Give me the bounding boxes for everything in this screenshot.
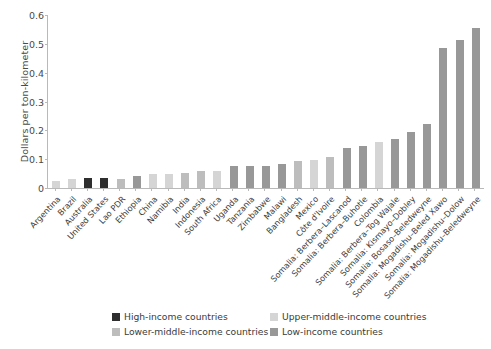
x-axis-tickmark bbox=[232, 188, 233, 191]
legend-item-lower-middle[interactable]: Lower-middle-income countries bbox=[112, 326, 270, 337]
x-axis-tickmark bbox=[216, 188, 217, 191]
bar-slot bbox=[274, 15, 290, 188]
bar bbox=[472, 28, 480, 188]
bar bbox=[100, 178, 108, 188]
x-axis-labels: ArgentinaBrazilAustraliaUnited StatesLao… bbox=[47, 192, 483, 302]
x-axis-tickmark bbox=[103, 188, 104, 191]
legend-item-high[interactable]: High-income countries bbox=[112, 311, 270, 322]
bar bbox=[230, 166, 238, 188]
bar-slot bbox=[226, 15, 242, 188]
bar-chart: Dollars per ton-kilometer 0.60.50.40.30.… bbox=[0, 0, 491, 349]
bar-slot bbox=[452, 15, 468, 188]
legend-swatch-icon bbox=[112, 313, 120, 321]
bar-slot bbox=[209, 15, 225, 188]
bar bbox=[181, 173, 189, 188]
bar-slot bbox=[468, 15, 484, 188]
x-axis-tickmark bbox=[168, 188, 169, 191]
x-axis-tickmark bbox=[329, 188, 330, 191]
bar-slot bbox=[193, 15, 209, 188]
legend-label: Low-income countries bbox=[282, 326, 383, 337]
x-axis-tickmark bbox=[458, 188, 459, 191]
x-axis-tickmark bbox=[474, 188, 475, 191]
bar-slot bbox=[355, 15, 371, 188]
bar-slot bbox=[371, 15, 387, 188]
legend: High-income countriesUpper-middle-income… bbox=[112, 309, 412, 339]
bar-slot bbox=[387, 15, 403, 188]
x-axis-tickmark bbox=[345, 188, 346, 191]
legend-swatch-icon bbox=[270, 313, 278, 321]
bar bbox=[456, 40, 464, 188]
bar-slot bbox=[242, 15, 258, 188]
bar bbox=[343, 148, 351, 188]
x-axis-tickmark bbox=[151, 188, 152, 191]
bar-slot bbox=[403, 15, 419, 188]
x-axis-tickmark bbox=[281, 188, 282, 191]
bar bbox=[149, 174, 157, 188]
x-axis-tickmark bbox=[184, 188, 185, 191]
bar-slot bbox=[48, 15, 64, 188]
bar-slot bbox=[161, 15, 177, 188]
bar-slot bbox=[145, 15, 161, 188]
bar bbox=[326, 157, 334, 188]
x-axis-tickmark bbox=[55, 188, 56, 191]
bar-slot bbox=[129, 15, 145, 188]
x-axis-tickmark bbox=[87, 188, 88, 191]
plot-area: 0.60.50.40.30.20.10 bbox=[47, 15, 484, 189]
bar-slot bbox=[64, 15, 80, 188]
bar-slot bbox=[419, 15, 435, 188]
y-axis-tick-label: 0.5 bbox=[18, 38, 44, 49]
x-axis-tickmark bbox=[394, 188, 395, 191]
x-axis-tickmark bbox=[119, 188, 120, 191]
bar-slot bbox=[290, 15, 306, 188]
bar bbox=[439, 48, 447, 188]
bar-slot bbox=[113, 15, 129, 188]
y-axis-tick-label: 0.3 bbox=[18, 96, 44, 107]
bar-series bbox=[48, 15, 484, 188]
bar bbox=[262, 166, 270, 188]
x-axis-tickmark bbox=[377, 188, 378, 191]
legend-item-low[interactable]: Low-income countries bbox=[270, 326, 412, 337]
x-axis-tickmark bbox=[442, 188, 443, 191]
bar bbox=[391, 139, 399, 188]
legend-swatch-icon bbox=[112, 328, 120, 336]
x-axis-tickmark bbox=[200, 188, 201, 191]
bar-slot bbox=[177, 15, 193, 188]
bar bbox=[407, 132, 415, 188]
x-axis-tickmark bbox=[135, 188, 136, 191]
y-axis-tick-label: 0 bbox=[18, 183, 44, 194]
x-axis-tickmark bbox=[410, 188, 411, 191]
bar bbox=[213, 171, 221, 188]
bar bbox=[133, 176, 141, 188]
bar-slot bbox=[96, 15, 112, 188]
x-axis-tickmark bbox=[313, 188, 314, 191]
y-axis-tick-label: 0.6 bbox=[18, 10, 44, 21]
legend-swatch-icon bbox=[270, 328, 278, 336]
bar-slot bbox=[322, 15, 338, 188]
bar bbox=[278, 164, 286, 188]
bar-slot bbox=[339, 15, 355, 188]
bar bbox=[375, 142, 383, 188]
x-axis-tickmark bbox=[426, 188, 427, 191]
x-axis-tickmark bbox=[361, 188, 362, 191]
bar-slot bbox=[306, 15, 322, 188]
bar bbox=[68, 179, 76, 188]
bar bbox=[117, 179, 125, 189]
legend-label: Upper-middle-income countries bbox=[282, 311, 427, 322]
bar-slot bbox=[80, 15, 96, 188]
bar bbox=[359, 146, 367, 188]
bar bbox=[246, 166, 254, 188]
bar bbox=[197, 171, 205, 188]
bar-slot bbox=[435, 15, 451, 188]
bar bbox=[294, 161, 302, 188]
bar bbox=[52, 181, 60, 188]
bar bbox=[423, 124, 431, 188]
x-axis-tickmark bbox=[264, 188, 265, 191]
x-label-slot: Somalia: Mogadishu–Beledweyne bbox=[467, 192, 483, 302]
x-axis-tickmark bbox=[297, 188, 298, 191]
bar bbox=[310, 160, 318, 188]
bar bbox=[84, 178, 92, 188]
y-axis-tick-label: 0.4 bbox=[18, 67, 44, 78]
bar bbox=[165, 174, 173, 188]
legend-label: High-income countries bbox=[124, 311, 228, 322]
legend-item-upper-middle[interactable]: Upper-middle-income countries bbox=[270, 311, 412, 322]
